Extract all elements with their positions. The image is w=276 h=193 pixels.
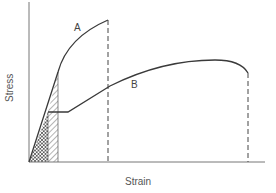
y-axis-label: Stress: [4, 74, 15, 102]
curve-a-label: A: [74, 22, 81, 33]
x-axis-label: Strain: [125, 176, 151, 187]
curve-b: [48, 60, 248, 112]
curve-b-label: B: [131, 79, 138, 90]
stress-strain-diagram: [0, 0, 276, 193]
